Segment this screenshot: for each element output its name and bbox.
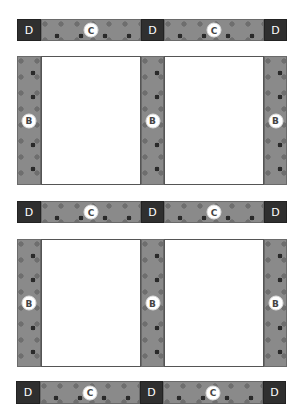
sash-c: C xyxy=(164,201,264,223)
cornerstone-d: D xyxy=(264,19,287,41)
sash-b: B xyxy=(17,56,41,185)
label-b: B xyxy=(22,296,37,311)
panel xyxy=(164,239,264,367)
sash-c: C xyxy=(164,19,264,41)
label-c: C xyxy=(206,385,221,400)
sash-b: B xyxy=(264,56,287,185)
cornerstone-d: D xyxy=(140,381,163,404)
cornerstone-d: D xyxy=(264,201,287,223)
label-b: B xyxy=(22,113,37,128)
label-b: B xyxy=(145,113,160,128)
panel xyxy=(41,56,141,185)
sash-b: B xyxy=(141,239,164,367)
sash-c: C xyxy=(163,381,263,404)
label-b: B xyxy=(268,113,283,128)
sash-c: C xyxy=(41,19,141,41)
label-b: B xyxy=(145,296,160,311)
label-c: C xyxy=(207,23,222,38)
label-c: C xyxy=(207,205,222,220)
label-c: C xyxy=(84,205,99,220)
cornerstone-d: D xyxy=(263,381,286,404)
sash-b: B xyxy=(141,56,164,185)
panel xyxy=(41,239,141,367)
label-b: B xyxy=(268,296,283,311)
sash-c: C xyxy=(40,381,140,404)
label-c: C xyxy=(84,23,99,38)
cornerstone-d: D xyxy=(141,19,164,41)
panel xyxy=(164,56,264,185)
sash-c: C xyxy=(41,201,141,223)
label-c: C xyxy=(83,385,98,400)
sash-b: B xyxy=(17,239,41,367)
sash-b: B xyxy=(264,239,287,367)
cornerstone-d: D xyxy=(16,381,40,404)
cornerstone-d: D xyxy=(17,19,41,41)
cornerstone-d: D xyxy=(141,201,164,223)
cornerstone-d: D xyxy=(17,201,41,223)
